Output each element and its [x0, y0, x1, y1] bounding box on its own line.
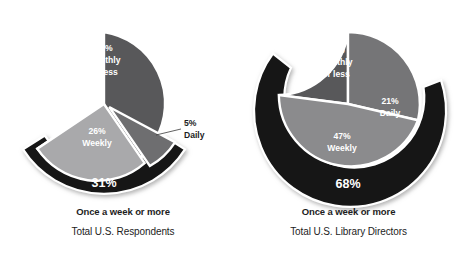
slice-label-daily-pct-right: 21% — [381, 96, 399, 106]
slice-label-monthly-line1-right: Monthly — [320, 57, 353, 67]
chart-panel-total-us-respondents: 69% Monthly or less 26% Weekly 5% Daily … — [0, 0, 232, 258]
slice-label-monthly-line2-right: or less — [322, 69, 350, 79]
chart-panel-total-us-library-directors: 32% Monthly or less 21% Daily 47% Weekly… — [232, 0, 465, 258]
slice-label-weekly-line1-right: Weekly — [327, 143, 357, 153]
caption-left: Once a week or more Total U.S. Responden… — [0, 206, 232, 238]
slice-label-weekly-pct-right: 47% — [333, 131, 351, 141]
slice-label-daily-line1-right: Daily — [380, 108, 401, 118]
caption-right: Once a week or more Total U.S. Library D… — [232, 206, 465, 238]
pie-chart-right: 32% Monthly or less 21% Daily 47% Weekly… — [232, 0, 465, 215]
slice-label-weekly-line1-left: Weekly — [82, 138, 112, 148]
slice-label-monthly-line2-left: or less — [90, 67, 118, 77]
slice-label-weekly-pct-left: 26% — [88, 126, 106, 136]
pie-chart-left: 69% Monthly or less 26% Weekly 5% Daily … — [0, 0, 232, 215]
outer-ring-value-right: 68% — [335, 177, 360, 191]
slice-label-monthly-pct-left: 69% — [95, 43, 113, 53]
slice-label-daily-line1-left: Daily — [184, 130, 205, 140]
pie-chart-figure: 69% Monthly or less 26% Weekly 5% Daily … — [0, 0, 465, 258]
caption-primary-right: Once a week or more — [232, 206, 465, 218]
caption-secondary-left: Total U.S. Respondents — [0, 225, 232, 238]
caption-primary-left: Once a week or more — [0, 206, 232, 218]
caption-secondary-right: Total U.S. Library Directors — [232, 225, 465, 238]
slice-label-monthly-pct-right: 32% — [327, 45, 345, 55]
outer-ring-value-left: 31% — [91, 176, 116, 190]
slice-label-daily-pct-left: 5% — [184, 118, 197, 128]
slice-label-monthly-line1-left: Monthly — [88, 55, 121, 65]
